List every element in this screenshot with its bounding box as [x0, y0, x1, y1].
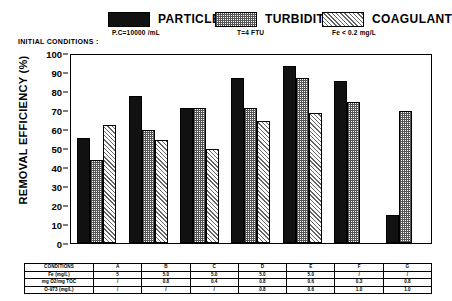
y-tick-label: 0 [38, 239, 62, 250]
table-cell: 5.0 [287, 271, 335, 279]
bar-coagulant-b [155, 140, 168, 243]
y-axis-label: REMOVAL EFFICIENCY (%) [17, 45, 29, 215]
bar-coagulant-c [206, 149, 219, 243]
table-cell: 1.0 [383, 286, 431, 294]
bar-particles-a [77, 138, 90, 243]
y-tick-label: 40 [38, 163, 62, 174]
table-cell: / [94, 279, 142, 287]
y-tick-mark [63, 92, 68, 93]
table-cell: F [335, 264, 383, 272]
table-cell: 1.0 [335, 286, 383, 294]
bar-group-f [328, 55, 379, 243]
table-cell: C [190, 264, 238, 272]
conditions-table-wrap: CONDITIONSABCDEFGFe (mg/L)55.05.05.05.0/… [24, 263, 432, 294]
y-tick-mark [63, 130, 68, 131]
y-tick-label: 90 [38, 68, 62, 79]
legend-item-coagulant: COAGULANT Fe < 0.2 mg/L [322, 12, 452, 36]
bar-groups [71, 55, 431, 243]
y-tick-mark [63, 187, 68, 188]
legend-item-turbidity: TURBIDITY T=4 FTU [215, 12, 337, 36]
bar-turbidity-d [244, 108, 257, 243]
table-cell: 0.8 [238, 286, 286, 294]
bar-group-a [71, 55, 122, 243]
y-tick-mark [63, 225, 68, 226]
bar-coagulant-d [257, 121, 270, 243]
table-cell: 0.8 [383, 279, 431, 287]
bar-group-d [225, 55, 276, 243]
bar-turbidity-e [296, 78, 309, 243]
chart-legend: INITIAL CONDITIONS : PARTICLES P.C=10000… [0, 12, 438, 46]
bar-coagulant-e [309, 113, 322, 243]
coagulant-swatch-icon [322, 12, 364, 27]
table-row-header: mg O2/mg TOC [25, 279, 94, 287]
bar-group-b [122, 55, 173, 243]
y-tick-label: 70 [38, 106, 62, 117]
table-row: O-973 (mg/L)///0.80.61.01.0 [25, 286, 432, 294]
table-cell: 5.0 [142, 271, 190, 279]
plot-area: REMOVAL EFFICIENCY (%) 01020304050607080… [0, 46, 438, 262]
particles-swatch-icon [108, 12, 150, 27]
table-row: CONDITIONSABCDEFG [25, 264, 432, 272]
y-tick-mark [63, 111, 68, 112]
initial-conditions-label: INITIAL CONDITIONS : [18, 38, 99, 45]
bar-turbidity-f [347, 102, 360, 243]
table-cell: / [142, 286, 190, 294]
table-cell: 0.4 [190, 279, 238, 287]
turbidity-swatch-icon [215, 12, 257, 27]
bar-turbidity-g [399, 111, 412, 243]
table-cell: D [238, 264, 286, 272]
bar-particles-b [129, 96, 142, 243]
y-tick-label: 100 [38, 49, 62, 60]
bar-particles-g [386, 215, 399, 243]
table-cell: 0.6 [287, 286, 335, 294]
table-cell: / [94, 286, 142, 294]
bar-turbidity-a [90, 160, 103, 243]
table-cell: A [94, 264, 142, 272]
y-tick-mark [63, 73, 68, 74]
table-cell: / [190, 286, 238, 294]
table-cell: / [383, 271, 431, 279]
bar-particles-e [283, 66, 296, 243]
bar-turbidity-c [193, 108, 206, 243]
table-row-header: CONDITIONS [25, 264, 94, 272]
bar-group-e [277, 55, 328, 243]
y-tick-label: 30 [38, 182, 62, 193]
table-row-header: Fe (mg/L) [25, 271, 94, 279]
bar-coagulant-a [103, 125, 116, 243]
table-row-header: O-973 (mg/L) [25, 286, 94, 294]
coagulant-legend-label: COAGULANT [372, 13, 452, 26]
plot-frame [70, 54, 432, 244]
y-tick-mark [63, 149, 68, 150]
bar-particles-c [180, 108, 193, 243]
y-tick-mark [63, 244, 68, 245]
y-tick-label: 50 [38, 144, 62, 155]
table-cell: 0.8 [238, 279, 286, 287]
bar-group-c [174, 55, 225, 243]
y-tick-mark [63, 54, 68, 55]
table-cell: 0.6 [287, 279, 335, 287]
table-row: Fe (mg/L)55.05.05.05.0// [25, 271, 432, 279]
y-tick-label: 60 [38, 125, 62, 136]
table-row: mg O2/mg TOC/0.80.40.80.60.30.8 [25, 279, 432, 287]
bar-particles-f [334, 81, 347, 243]
coagulant-legend-sub: Fe < 0.2 mg/L [332, 29, 442, 36]
table-cell: B [142, 264, 190, 272]
table-cell: 5.0 [190, 271, 238, 279]
y-tick-label: 10 [38, 220, 62, 231]
y-tick-label: 20 [38, 201, 62, 212]
bar-group-g [380, 55, 431, 243]
particles-legend-sub: P.C=10000 /mL [112, 29, 212, 36]
bar-turbidity-b [142, 130, 155, 243]
table-cell: 0.3 [335, 279, 383, 287]
bar-particles-d [231, 78, 244, 243]
table-cell: 5 [94, 271, 142, 279]
table-cell: G [383, 264, 431, 272]
y-axis: 0102030405060708090100 [38, 54, 68, 244]
y-tick-label: 80 [38, 87, 62, 98]
table-cell: 5.0 [238, 271, 286, 279]
table-cell: 0.8 [142, 279, 190, 287]
conditions-table: CONDITIONSABCDEFGFe (mg/L)55.05.05.05.0/… [24, 263, 432, 294]
y-tick-mark [63, 206, 68, 207]
table-cell: / [335, 271, 383, 279]
